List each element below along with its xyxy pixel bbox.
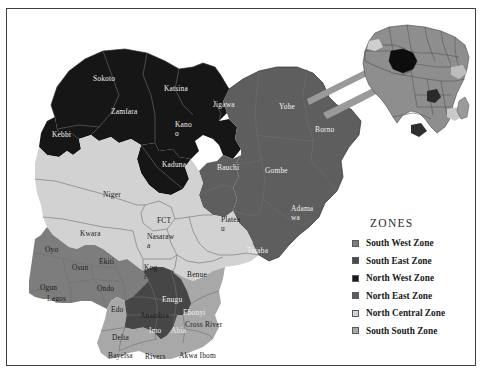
state-label-oyo: Oyo <box>45 246 58 255</box>
state-label-benue: Benue <box>187 271 207 280</box>
legend-label: South East Zone <box>366 256 432 266</box>
state-label-crossriver: Cross River <box>185 321 222 330</box>
state-label-bauchi: Bauchi <box>217 164 239 173</box>
state-label-gombe: Gombe <box>265 167 288 176</box>
state-label-kebbi: Kebbi <box>52 131 71 140</box>
legend-swatch-icon <box>352 275 359 282</box>
legend-label: North West Zone <box>366 273 434 283</box>
state-label-edo: Edo <box>111 306 124 315</box>
state-label-yobe: Yobe <box>279 103 295 112</box>
state-label-enugu: Enugu <box>162 296 182 305</box>
figure-frame: .nw{fill:#161616;} .ne{fill:#5e5e5e;} .n… <box>6 8 476 366</box>
state-label-abia: Abia <box>171 327 186 336</box>
legend-label: South West Zone <box>366 238 434 248</box>
africa-inset <box>363 25 469 137</box>
legend-swatch-icon <box>352 310 359 317</box>
state-label-zamfara: Zamfara <box>111 108 137 117</box>
state-label-borno: Borno <box>315 126 334 135</box>
legend-row: South South Zone <box>352 326 474 336</box>
state-label-kaduna: Kaduna <box>162 161 186 170</box>
state-label-kogi: Kog i <box>144 264 157 281</box>
state-label-kwara: Kwara <box>80 230 101 239</box>
state-label-jigawa: Jigawa <box>213 101 235 110</box>
legend-label: North East Zone <box>366 291 432 301</box>
legend-swatch-icon <box>352 292 359 299</box>
legend-items: South West ZoneSouth East ZoneNorth West… <box>352 238 474 336</box>
legend-row: North Central Zone <box>352 308 474 318</box>
state-label-ogun: Ogun <box>40 284 57 293</box>
legend-label: North Central Zone <box>366 308 445 318</box>
legend-swatch-icon <box>352 240 359 247</box>
state-label-ekiti: Ekiti <box>99 258 114 267</box>
state-label-rivers: Rivers <box>145 353 166 362</box>
state-label-bayelsa: Bayelsa <box>108 352 133 361</box>
state-label-plateau: Platea u <box>221 216 240 233</box>
state-label-osun: Osun <box>72 264 88 273</box>
state-label-nasarawa: Nasaraw a <box>147 233 174 250</box>
state-label-delta: Delta <box>112 334 129 343</box>
state-label-lagos: Lagos <box>47 295 66 304</box>
legend: ZONES South West ZoneSouth East ZoneNort… <box>352 217 474 343</box>
legend-row: South West Zone <box>352 238 474 248</box>
state-label-niger: Niger <box>103 191 121 200</box>
legend-row: North East Zone <box>352 291 474 301</box>
state-label-adamawa: Adama wa <box>291 205 313 222</box>
legend-swatch-icon <box>352 257 359 264</box>
state-label-ebonyi: Ebonyi <box>183 309 206 318</box>
legend-swatch-icon <box>352 327 359 334</box>
state-label-anambra: Anambra <box>140 312 169 321</box>
state-label-katsina: Katsina <box>164 85 188 94</box>
state-label-ondo: Ondo <box>97 285 114 294</box>
state-label-imo: Imo <box>149 327 162 336</box>
state-label-fct: FCT <box>157 217 171 226</box>
state-label-kano: Kano o <box>175 121 192 138</box>
legend-row: South East Zone <box>352 256 474 266</box>
legend-row: North West Zone <box>352 273 474 283</box>
state-label-taraba: Taraba <box>247 247 268 256</box>
legend-label: South South Zone <box>366 326 437 336</box>
legend-title: ZONES <box>370 217 474 229</box>
state-label-sokoto: Sokoto <box>93 75 115 84</box>
state-label-akwaibom: Akwa Ibom <box>179 352 216 361</box>
